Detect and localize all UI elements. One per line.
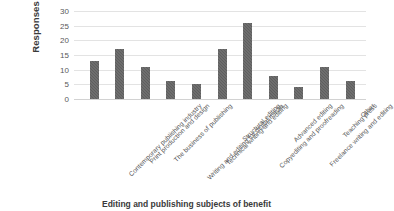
- bar: [90, 61, 99, 99]
- bar: [166, 81, 175, 99]
- bar: [320, 67, 329, 99]
- bar: [269, 76, 278, 99]
- bar: [192, 84, 201, 99]
- y-tick-label: 30: [53, 7, 69, 16]
- bar: [115, 49, 124, 99]
- bar: [141, 67, 150, 99]
- bar: [218, 49, 227, 99]
- bar: [243, 23, 252, 99]
- y-tick-label: 15: [53, 51, 69, 60]
- bar: [294, 87, 303, 99]
- y-axis-title: Responses: [30, 0, 46, 73]
- bar: [346, 81, 355, 99]
- y-tick-label: 20: [53, 36, 69, 45]
- x-axis-title: Editing and publishing subjects of benef…: [0, 199, 373, 209]
- y-tick-label: 10: [53, 65, 69, 74]
- x-axis-labels: Contemporary publishing industryPrint pr…: [0, 100, 373, 198]
- y-tick-label: 25: [53, 21, 69, 30]
- bars-layer: [74, 11, 366, 99]
- plot-area: 051015202530: [74, 11, 366, 99]
- y-tick-label: 5: [53, 80, 69, 89]
- x-tick-label: Technical writing and editing: [225, 102, 289, 166]
- x-tick-label: Structural editing: [241, 102, 282, 143]
